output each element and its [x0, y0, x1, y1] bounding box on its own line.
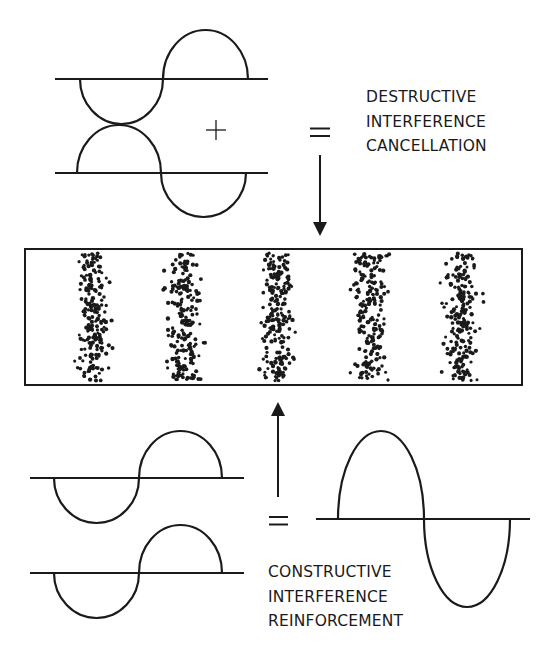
- equals-operator-bottom: [269, 517, 288, 525]
- constructive-wave-1: [30, 431, 244, 523]
- constructive-label-line-2: INTERFERENCE: [268, 585, 403, 610]
- destructive-wave-2: [55, 125, 268, 217]
- constructive-label-line-1: CONSTRUCTIVE: [268, 560, 403, 585]
- destructive-input-waves: [55, 30, 268, 217]
- constructive-input-waves: [30, 431, 244, 618]
- destructive-label: DESTRUCTIVE INTERFERENCE CANCELLATION: [366, 85, 487, 159]
- equals-operator-top: [310, 129, 330, 137]
- constructive-label: CONSTRUCTIVE INTERFERENCE REINFORCEMENT: [268, 560, 403, 634]
- interference-diagram: DESTRUCTIVE INTERFERENCE CANCELLATION CO…: [0, 0, 549, 661]
- destructive-label-line-3: CANCELLATION: [366, 134, 487, 159]
- arrow-down-icon: [313, 155, 327, 236]
- bright-fringe-2: [161, 252, 207, 381]
- destructive-label-line-1: DESTRUCTIVE: [366, 85, 487, 110]
- bright-fringe-3: [257, 252, 297, 383]
- constructive-label-line-3: REINFORCEMENT: [268, 609, 403, 634]
- arrow-up-icon: [271, 402, 285, 497]
- plus-operator: [206, 120, 226, 140]
- bright-fringe-5: [439, 252, 486, 382]
- interference-pattern: [25, 249, 522, 385]
- bright-fringe-1: [73, 251, 114, 382]
- bright-fringe-4: [349, 252, 391, 382]
- destructive-wave-1: [55, 30, 268, 124]
- constructive-wave-2: [30, 525, 244, 618]
- destructive-label-line-2: INTERFERENCE: [366, 110, 487, 135]
